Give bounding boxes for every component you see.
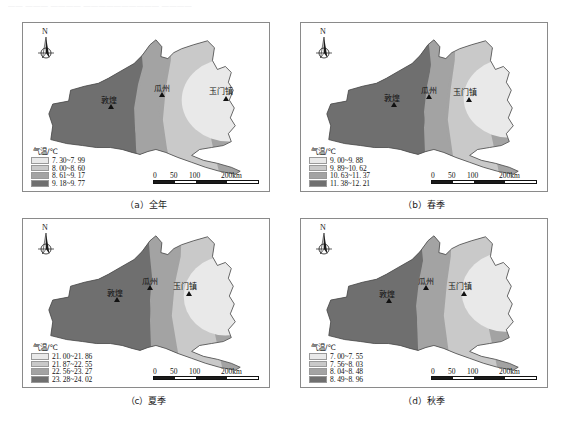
- map-figure-grid: N 敦煌 瓜州 玉门镇 气温/℃ 7. 30~7. 99: [0, 18, 564, 428]
- scale-tick-50: 50: [448, 367, 456, 376]
- legend-row: 8. 49~8. 96: [309, 375, 413, 383]
- scale-bar-track: [153, 180, 259, 184]
- scale-tick-labels: 0 50 100 200km: [153, 171, 261, 180]
- legend-swatch-3: [31, 368, 49, 375]
- scale-seg-1: [154, 377, 175, 379]
- scale-seg-2: [175, 377, 196, 379]
- scale-seg-1: [432, 181, 453, 183]
- legend-b: 气温/℃ 9. 00~9. 88 9. 89~10. 62 10. 63~11.…: [309, 145, 413, 187]
- scale-tick-100: 100: [189, 171, 200, 180]
- scale-seg-3: [196, 377, 227, 379]
- scale-tick-50: 50: [170, 367, 178, 376]
- scale-tick-100: 100: [467, 171, 478, 180]
- scan-header-artifact: —— ——— ———— —————————— ————: [8, 2, 338, 9]
- scale-tick-labels: 0 50 100 200km: [431, 367, 539, 376]
- legend-swatch-4: [31, 376, 49, 383]
- legend-title: 气温/℃: [33, 341, 135, 352]
- legend-label-4: 11. 38~12. 21: [330, 179, 370, 188]
- scale-tick-0: 0: [431, 367, 435, 376]
- legend-swatch-3: [309, 172, 327, 179]
- legend-row: 9. 18~9. 77: [31, 179, 135, 187]
- legend-swatch-1: [31, 157, 49, 164]
- city-label-guazhou: 瓜州: [142, 275, 158, 286]
- panel-caption-a: （a）全年: [22, 198, 270, 211]
- legend-swatch-4: [309, 180, 327, 187]
- scale-seg-1: [432, 377, 453, 379]
- scale-bar-c: 0 50 100 200km: [153, 367, 261, 380]
- scale-seg-2: [175, 181, 196, 183]
- panel-caption-c: （c）夏季: [22, 394, 270, 407]
- scale-seg-2: [453, 377, 474, 379]
- city-marker-yumenzhen: [223, 96, 229, 101]
- city-label-yumenzhen: 玉门镇: [448, 280, 471, 291]
- legend-a: 气温/℃ 7. 30~7. 99 8. 00~8. 60 8. 61~9. 17…: [31, 145, 135, 187]
- legend-swatch-2: [31, 361, 49, 368]
- legend-row: 23. 28~24. 02: [31, 375, 135, 383]
- legend-c: 气温/℃ 21. 00~21. 86 21. 87~22. 55 22. 56~…: [31, 341, 135, 383]
- map-panel-b: N 敦煌 瓜州 玉门镇 气温/℃ 9. 00~9. 88: [300, 22, 550, 218]
- city-label-dunhuang: 敦煌: [107, 287, 123, 298]
- legend-swatch-2: [31, 165, 49, 172]
- legend-title: 气温/℃: [33, 145, 135, 156]
- scale-tick-200: 200km: [221, 171, 242, 180]
- legend-d: 气温/℃ 7. 00~7. 55 7. 56~8. 03 8. 04~8. 48…: [309, 341, 413, 383]
- legend-label-4: 9. 18~9. 77: [52, 179, 85, 188]
- north-label: N: [320, 223, 326, 232]
- north-arrow-d: N: [313, 224, 335, 264]
- legend-swatch-1: [309, 157, 327, 164]
- map-frame-d: N 敦煌 瓜州 玉门镇 气温/℃ 7. 00~7. 55: [300, 218, 548, 388]
- map-frame-b: N 敦煌 瓜州 玉门镇 气温/℃ 9. 00~9. 88: [300, 22, 548, 192]
- city-marker-yumenzhen: [466, 97, 472, 102]
- legend-title: 气温/℃: [311, 145, 413, 156]
- scale-tick-50: 50: [170, 171, 178, 180]
- legend-row: 11. 38~12. 21: [309, 179, 413, 187]
- scale-bar-b: 0 50 100 200km: [431, 171, 539, 184]
- north-arrow-c: N: [35, 224, 57, 264]
- scale-tick-100: 100: [189, 367, 200, 376]
- legend-swatch-2: [309, 165, 327, 172]
- scale-tick-labels: 0 50 100 200km: [153, 367, 261, 376]
- scale-seg-4: [505, 181, 536, 183]
- scale-seg-1: [154, 181, 175, 183]
- city-label-yumenzhen: 玉门镇: [453, 86, 476, 97]
- scale-seg-3: [196, 181, 227, 183]
- north-arrow-b: N: [313, 28, 335, 68]
- legend-label-4: 8. 49~8. 96: [330, 375, 363, 384]
- scale-tick-100: 100: [467, 367, 478, 376]
- scale-seg-3: [474, 181, 505, 183]
- legend-swatch-4: [309, 376, 327, 383]
- scale-bar-d: 0 50 100 200km: [431, 367, 539, 380]
- scale-bar-track: [431, 180, 537, 184]
- scale-tick-labels: 0 50 100 200km: [431, 171, 539, 180]
- city-marker-yumenzhen: [461, 291, 467, 296]
- legend-label-4: 23. 28~24. 02: [52, 375, 92, 384]
- scale-tick-200: 200km: [221, 367, 242, 376]
- city-label-dunhuang: 敦煌: [384, 92, 400, 103]
- map-panel-c: N 敦煌 瓜州 玉门镇 气温/℃ 21. 00~21. 86: [22, 218, 272, 414]
- legend-swatch-4: [31, 180, 49, 187]
- panel-caption-d: （d）秋季: [300, 394, 548, 407]
- legend-swatch-1: [31, 353, 49, 360]
- scale-bar-track: [431, 376, 537, 380]
- scale-tick-50: 50: [448, 171, 456, 180]
- legend-swatch-3: [309, 368, 327, 375]
- map-panel-a: N 敦煌 瓜州 玉门镇 气温/℃ 7. 30~7. 99: [22, 22, 272, 218]
- city-label-yumenzhen: 玉门镇: [209, 85, 232, 96]
- city-label-guazhou: 瓜州: [418, 275, 434, 286]
- scale-seg-3: [474, 377, 505, 379]
- city-marker-yumenzhen: [186, 291, 192, 296]
- city-label-dunhuang: 敦煌: [379, 288, 395, 299]
- legend-swatch-2: [309, 361, 327, 368]
- scale-tick-0: 0: [153, 171, 157, 180]
- map-panel-d: N 敦煌 瓜州 玉门镇 气温/℃ 7. 00~7. 55: [300, 218, 550, 414]
- scale-tick-0: 0: [431, 171, 435, 180]
- city-label-guazhou: 瓜州: [421, 84, 437, 95]
- north-label: N: [320, 27, 326, 36]
- legend-title: 气温/℃: [311, 341, 413, 352]
- legend-swatch-3: [31, 172, 49, 179]
- city-label-yumenzhen: 玉门镇: [173, 280, 196, 291]
- city-label-guazhou: 瓜州: [154, 82, 170, 93]
- scale-tick-0: 0: [153, 367, 157, 376]
- north-label: N: [42, 223, 48, 232]
- scale-tick-200: 200km: [499, 171, 520, 180]
